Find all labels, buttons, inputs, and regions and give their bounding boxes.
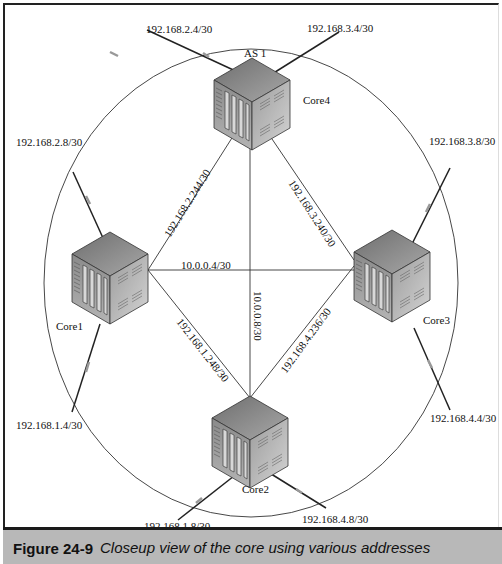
network-diagram: AS 1 Core4 Core1 Core3 Core2 192.168.2.4… [0, 0, 502, 528]
as-label: AS 1 [244, 47, 266, 59]
router-core2[interactable] [212, 396, 288, 488]
subnet-label: 192.168.2.8/30 [16, 136, 83, 148]
router-label-core1: Core1 [56, 320, 83, 332]
core-links [148, 108, 354, 398]
core-subnet-label: 10.0.0.8/30 [252, 291, 264, 341]
router-label-core3: Core3 [423, 314, 450, 326]
core-subnet-label: 192.168.2.244/30 [162, 167, 213, 239]
router-core1[interactable] [72, 232, 148, 324]
router-label-core4: Core4 [303, 94, 330, 106]
core-subnet-label: 192.168.1.248/30 [174, 316, 231, 385]
router-core3[interactable] [354, 230, 430, 322]
core-subnet-label: 192.168.4.236/30 [278, 305, 333, 375]
core-subnet-label: 192.168.3.240/30 [286, 178, 338, 250]
caption-text: Closeup view of the core using various a… [100, 539, 430, 556]
subnet-label: 192.168.2.4/30 [146, 23, 213, 35]
core-subnet-label: 10.0.0.4/30 [181, 259, 231, 271]
subnet-label: 192.168.1.4/30 [16, 419, 83, 431]
router-label-core2: Core2 [242, 483, 269, 495]
subnet-label: 192.168.3.8/30 [429, 135, 496, 147]
subnet-label: 192.168.4.4/30 [430, 412, 497, 424]
caption-number: Figure 24-9 [13, 540, 93, 557]
figure-caption: Figure 24-9 Closeup view of the core usi… [3, 530, 502, 564]
subnet-label: 192.168.4.8/30 [302, 513, 369, 525]
subnet-label: 192.168.3.4/30 [307, 22, 374, 34]
router-core4[interactable] [214, 58, 290, 150]
